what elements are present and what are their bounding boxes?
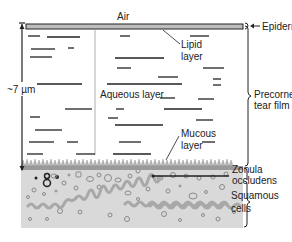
thickness-arrow [19,23,25,171]
zonula-label-line1: Zonula [232,164,263,175]
precorneal-brace [245,26,251,166]
squamous-label-line2: cells [231,203,251,214]
aqueous-label: Aqueous layer [100,89,165,100]
air-label: Air [117,11,130,22]
epidermis-pointer [245,23,260,29]
mucin-fringe [21,159,233,166]
mucous-label-line1: Mucous [181,128,216,139]
lipid-label-line1: Lipid [181,39,202,50]
lipid-leader [163,30,180,44]
mucous-leader [166,136,179,160]
precorneal-label-line2: tear film [254,100,290,111]
precorneal-label-line1: Precorneal [254,89,292,100]
thickness-label: ~7 µm [7,84,35,95]
epidermis-label: Epidermis [262,21,292,32]
zonula-dot [151,174,154,177]
zonula-label-line2: occludens [232,175,277,186]
tear-film-diagram: ~7 µm Air Epidermis Lipid layer Aqueous … [0,0,292,242]
epithelial-surface [21,166,243,170]
squamous-label-line1: Squamous [231,190,279,201]
squamous-cell-layer [21,170,243,228]
lipid-layer-bar [26,24,243,29]
lipid-label-line2: layer [181,51,203,62]
mucous-label-line2: layer [181,140,203,151]
